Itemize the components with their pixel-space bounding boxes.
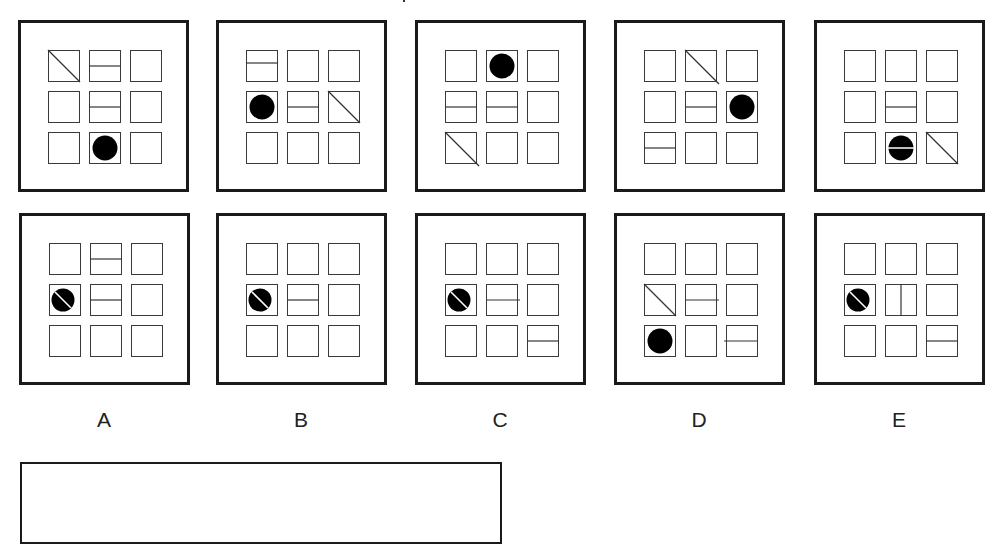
grid-cell-empty xyxy=(844,91,876,123)
horizontal-line-icon xyxy=(685,91,717,123)
grid-cell-empty xyxy=(527,50,559,82)
horizontal-line-icon xyxy=(287,91,319,123)
circle-with-line-icon xyxy=(885,132,917,164)
grid-cell-empty xyxy=(328,284,360,316)
grid-cell-empty xyxy=(328,50,360,82)
grid-cell-horizontal-line xyxy=(90,284,122,316)
grid-cell-empty xyxy=(131,284,163,316)
grid-cell-empty xyxy=(527,91,559,123)
grid-cell-empty xyxy=(328,325,360,357)
grid-cell-empty xyxy=(486,243,518,275)
grid-cell-horizontal-line-overflow xyxy=(486,284,518,316)
grid-cell-empty xyxy=(926,50,958,82)
option-label-b: B xyxy=(281,408,321,432)
vertical-line-icon xyxy=(885,284,917,316)
grid-cell-horizontal-line-high xyxy=(246,50,278,82)
grid-cell-circle-with-horizontal-line xyxy=(885,132,917,164)
grid-cell-vertical-line xyxy=(885,284,917,316)
grid-cell-empty xyxy=(486,325,518,357)
grid-cell-horizontal-line xyxy=(89,91,121,123)
horizontal-line-icon xyxy=(246,50,278,82)
question-panel-5 xyxy=(814,20,985,192)
filled-circle-icon xyxy=(89,132,121,164)
grid-cell-horizontal-line xyxy=(90,243,122,275)
grid-cell-filled-circle xyxy=(89,132,121,164)
grid-cell-horizontal-line xyxy=(644,132,676,164)
grid-cell-diagonal-overflow xyxy=(445,132,477,164)
grid-cell-empty xyxy=(445,243,477,275)
grid-cell-empty xyxy=(445,50,477,82)
grid-cell-empty xyxy=(49,325,81,357)
grid-cell-empty xyxy=(287,132,319,164)
grid-cell-empty xyxy=(445,325,477,357)
grid-cell-circle-with-diagonal xyxy=(246,284,278,316)
grid-cell-diagonal xyxy=(328,91,360,123)
grid-cell-empty xyxy=(685,132,717,164)
answer-option-c[interactable] xyxy=(415,213,586,385)
filled-circle-icon xyxy=(246,91,278,123)
grid-cell-empty xyxy=(246,325,278,357)
grid-cell-filled-circle xyxy=(486,50,518,82)
grid-cell-empty xyxy=(726,50,758,82)
grid-cell-empty xyxy=(328,132,360,164)
grid-cell-diagonal xyxy=(48,50,80,82)
grid-cell-empty xyxy=(844,132,876,164)
horizontal-line-icon xyxy=(527,325,559,357)
horizontal-line-icon xyxy=(445,91,477,123)
grid-cell-empty xyxy=(644,91,676,123)
diagonal-line-icon xyxy=(48,50,80,82)
stray-dot xyxy=(403,0,405,2)
grid-cell-empty xyxy=(328,243,360,275)
grid-cell-filled-circle xyxy=(246,91,278,123)
grid-cell-empty xyxy=(726,243,758,275)
grid-cell-empty xyxy=(926,243,958,275)
horizontal-line-icon xyxy=(685,284,717,316)
grid-cell-empty xyxy=(527,132,559,164)
horizontal-line-icon xyxy=(90,243,122,275)
grid-cell-empty xyxy=(131,243,163,275)
answer-option-e[interactable] xyxy=(814,213,985,385)
question-panel-1 xyxy=(18,20,189,192)
grid-cell-empty xyxy=(246,243,278,275)
grid-cell-empty xyxy=(926,284,958,316)
horizontal-line-icon xyxy=(726,325,758,357)
filled-circle-icon xyxy=(644,325,676,357)
grid-cell-empty xyxy=(486,132,518,164)
grid-cell-horizontal-line xyxy=(89,50,121,82)
diagonal-line-icon xyxy=(644,284,676,316)
option-label-a: A xyxy=(84,408,124,432)
answer-input-box[interactable] xyxy=(20,462,502,544)
grid-cell-empty xyxy=(527,284,559,316)
diagonal-line-icon xyxy=(328,91,360,123)
grid-cell-horizontal-line xyxy=(926,325,958,357)
grid-cell-empty xyxy=(885,50,917,82)
grid-cell-horizontal-line xyxy=(527,325,559,357)
grid-cell-empty xyxy=(644,50,676,82)
grid-cell-circle-with-diagonal xyxy=(445,284,477,316)
grid-cell-diagonal xyxy=(644,284,676,316)
option-label-d: D xyxy=(679,408,719,432)
horizontal-line-icon xyxy=(885,91,917,123)
grid-cell-empty xyxy=(287,50,319,82)
grid-cell-empty xyxy=(48,132,80,164)
horizontal-line-icon xyxy=(90,284,122,316)
answer-option-d[interactable] xyxy=(614,213,785,385)
circle-with-diagonal-icon xyxy=(246,284,278,316)
option-label-e: E xyxy=(879,408,919,432)
grid-cell-filled-circle xyxy=(726,91,758,123)
grid-cell-diagonal-overflow xyxy=(685,50,717,82)
grid-cell-empty xyxy=(726,284,758,316)
question-panel-3 xyxy=(415,20,586,192)
grid-cell-empty xyxy=(90,325,122,357)
grid-cell-circle-with-diagonal xyxy=(49,284,81,316)
diagonal-line-icon xyxy=(926,132,958,164)
grid-cell-horizontal-line xyxy=(287,284,319,316)
circle-with-diagonal-icon xyxy=(445,284,477,316)
grid-cell-horizontal-line xyxy=(685,91,717,123)
answer-option-b[interactable] xyxy=(216,213,387,385)
grid-cell-horizontal-line xyxy=(445,91,477,123)
answer-option-a[interactable] xyxy=(19,213,190,385)
grid-cell-horizontal-line xyxy=(885,91,917,123)
grid-cell-empty xyxy=(48,91,80,123)
grid-cell-circle-with-diagonal xyxy=(844,284,876,316)
